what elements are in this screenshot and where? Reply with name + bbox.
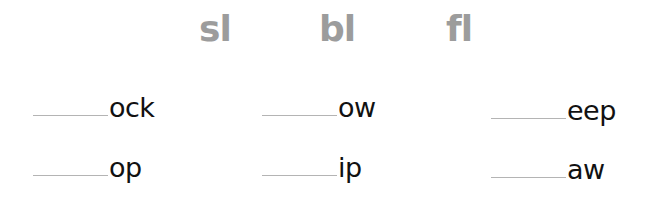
fill-in-blank[interactable] (262, 175, 337, 176)
word-ending: ock (109, 92, 155, 124)
blend-fl: fl (446, 9, 472, 49)
word-ending: ip (338, 152, 362, 184)
word-item: eep (491, 87, 616, 127)
fill-in-blank[interactable] (262, 115, 337, 116)
word-ending: aw (567, 154, 605, 186)
fill-in-blank[interactable] (33, 115, 108, 116)
word-item: op (33, 144, 142, 184)
word-ending: ow (338, 92, 376, 124)
word-item: ock (33, 84, 155, 124)
fill-in-blank[interactable] (491, 177, 566, 178)
word-item: ow (262, 84, 376, 124)
fill-in-blank[interactable] (33, 175, 108, 176)
word-ending: op (109, 152, 142, 184)
blend-bl: bl (319, 9, 355, 49)
word-item: ip (262, 144, 362, 184)
word-item: aw (491, 146, 605, 186)
word-ending: eep (567, 95, 616, 127)
blend-sl: sl (199, 9, 231, 49)
fill-in-blank[interactable] (491, 118, 566, 119)
